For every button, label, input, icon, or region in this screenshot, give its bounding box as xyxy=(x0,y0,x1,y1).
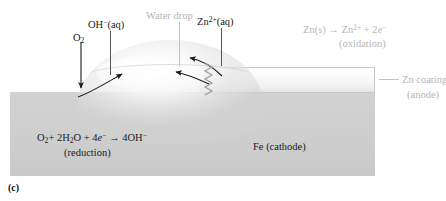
reduction-water: + 2H xyxy=(48,132,69,143)
water-drop-label: Water drop xyxy=(146,9,193,22)
oxidation-reactant: Zn(s) xyxy=(303,24,326,35)
corrosion-figure-panel-c: Water drop OH−(aq) O2 Zn2+(aq) Zn(s) → Z… xyxy=(0,0,446,201)
reduction-equation-line1: O2+ 2H2O + 4e− → 4OH− xyxy=(37,131,147,146)
oxidation-equation-line1: Zn(s) → Zn2+ + 2e− xyxy=(303,23,387,36)
reduction-product: 4OH xyxy=(122,132,142,143)
hydroxide-label-phase: (aq) xyxy=(107,19,124,30)
zinc-ion-label-charge: 2+ xyxy=(209,15,217,24)
zinc-coating-anode-label: (anode) xyxy=(407,88,439,101)
oxidation-product-base: Zn xyxy=(342,24,354,35)
oxygen-label-sub: 2 xyxy=(81,36,85,45)
hydroxide-outflow-arrow xyxy=(78,74,122,97)
panel-letter: (c) xyxy=(8,182,19,193)
reduction-product-charge: − xyxy=(143,131,147,140)
oxidation-product-charge: 2+ xyxy=(353,23,361,32)
zinc-ion-label-phase: (aq) xyxy=(217,16,234,27)
iron-cathode-label: Fe (cathode) xyxy=(253,140,306,153)
reduction-electron-charge: − xyxy=(102,131,106,140)
zinc-ion-label-base: Zn xyxy=(197,16,209,27)
reduction-oxygen: O xyxy=(37,132,45,143)
zinc-ion-arrow-upper xyxy=(190,58,222,76)
reduction-arrow: → xyxy=(109,132,120,143)
oxidation-electron-charge: − xyxy=(382,23,386,32)
oxidation-electron-count: + 2 xyxy=(364,24,378,35)
zinc-ion-arrow-lower xyxy=(176,72,209,84)
reduction-electrons: O + 4 xyxy=(74,132,98,143)
oxygen-label-base: O xyxy=(73,32,81,43)
zinc-coating-label: Zn coating xyxy=(402,73,446,86)
oxygen-label: O2 xyxy=(73,31,84,45)
hydroxide-label: OH−(aq) xyxy=(88,18,124,31)
electron-path-coil xyxy=(205,63,212,95)
hydroxide-label-base: OH xyxy=(88,19,103,30)
oxidation-equation-caption: (oxidation) xyxy=(339,37,386,50)
reduction-equation-caption: (reduction) xyxy=(64,146,111,159)
zinc-ion-label: Zn2+(aq) xyxy=(197,15,234,28)
oxidation-arrow: → xyxy=(328,24,339,35)
